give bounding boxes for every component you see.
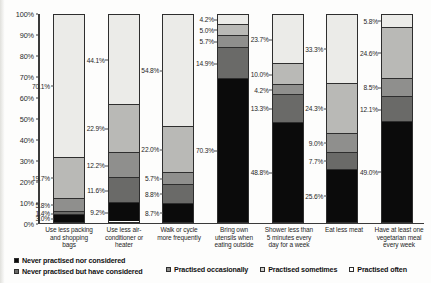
- bar-segment-value-label: 48.8%: [251, 169, 269, 176]
- bar-segment-value-label: 4.2%: [200, 16, 214, 23]
- bar-segment-value-label: 10.0%: [251, 71, 269, 78]
- bar-segment-considered[interactable]: 12.1%: [382, 96, 412, 122]
- bar-segment-sometimes[interactable]: 24.6%: [382, 27, 412, 78]
- legend-item[interactable]: Practised sometimes: [260, 265, 337, 275]
- y-axis-tick-label: 50%: [20, 115, 34, 124]
- bar-segment-value-label: 13.3%: [251, 105, 269, 112]
- stacked-bar[interactable]: 33.3%24.3%9.0%7.7%25.6%: [326, 14, 358, 223]
- legend-label: Never practised nor considered: [22, 256, 125, 266]
- chart-legend: Never practised nor consideredNever prac…: [14, 256, 424, 277]
- bar-segment-value-label: 24.3%: [305, 105, 323, 112]
- bar-segment-often[interactable]: 5.8%: [382, 15, 412, 27]
- bar-segment-value-label: 54.8%: [141, 67, 159, 74]
- bar-segment-sometimes[interactable]: 24.3%: [327, 83, 357, 133]
- stacked-bar[interactable]: 54.8%22.0%5.7%8.8%8.7%: [162, 14, 194, 223]
- bar-column[interactable]: 5.8%24.6%8.5%12.1%49.0%: [372, 14, 422, 223]
- bar-segment-occasionally[interactable]: 5.8%: [54, 198, 84, 211]
- stacked-bar[interactable]: 70.1%19.7%5.8%1.4%3.0%: [53, 14, 85, 223]
- bar-segment-value-label: 3.0%: [36, 215, 50, 222]
- legend-item[interactable]: Practised occasionally: [166, 265, 248, 275]
- bar-segment-often[interactable]: 70.1%: [54, 15, 84, 157]
- bar-segment-value-label: 8.8%: [145, 190, 159, 197]
- bar-segment-considered[interactable]: 8.8%: [163, 184, 193, 203]
- bar-segment-never[interactable]: 25.6%: [327, 169, 357, 222]
- bar-segment-never[interactable]: 49.0%: [382, 121, 412, 221]
- legend-item[interactable]: Never practised nor considered: [14, 256, 166, 266]
- bar-segment-value-label: 23.7%: [251, 36, 269, 43]
- y-axis-tick-label: 90%: [20, 31, 34, 40]
- bar-segment-occasionally[interactable]: 9.0%: [327, 133, 357, 152]
- bar-segment-often[interactable]: 4.2%: [218, 15, 248, 24]
- y-axis-tick-mark: [36, 140, 39, 141]
- bar-segment-value-label: 8.7%: [145, 209, 159, 216]
- y-axis-tick-mark: [36, 182, 39, 183]
- y-axis-tick-label: 30%: [20, 157, 34, 166]
- bar-segment-considered[interactable]: 11.6%: [109, 177, 139, 201]
- bar-segment-value-label: 22.0%: [141, 146, 159, 153]
- bar-segment-value-label: 9.2%: [90, 209, 104, 216]
- bar-segment-value-label: 12.1%: [360, 106, 378, 113]
- bar-segment-often[interactable]: 23.7%: [273, 15, 303, 63]
- bar-segment-considered[interactable]: 14.9%: [218, 47, 248, 78]
- bar-segment-never[interactable]: 70.3%: [218, 78, 248, 221]
- bar-segment-often[interactable]: 44.1%: [109, 15, 139, 104]
- stacked-bar[interactable]: 4.2%5.0%5.7%14.9%70.3%: [217, 14, 249, 223]
- bar-segment-value-label: 5.7%: [200, 38, 214, 45]
- category-label: Eat less meat: [319, 226, 369, 249]
- y-axis-tick-label: 60%: [20, 94, 34, 103]
- bar-segment-never[interactable]: 8.7%: [163, 203, 193, 222]
- category-labels: Use less packing and shopping bagsUse le…: [44, 226, 424, 249]
- legend-item[interactable]: Practised often: [349, 265, 407, 275]
- y-axis-tick-mark: [36, 56, 39, 57]
- bar-segment-sometimes[interactable]: 22.0%: [163, 126, 193, 172]
- category-label: Have at least one vegetarian meal every …: [374, 226, 424, 249]
- legend-label: Practised sometimes: [268, 265, 337, 275]
- bar-segment-value-label: 25.6%: [305, 192, 323, 199]
- y-axis-tick-mark: [36, 161, 39, 162]
- bar-segment-considered[interactable]: 7.7%: [327, 152, 357, 169]
- bar-segment-sometimes[interactable]: 19.7%: [54, 157, 84, 198]
- y-axis-tick-label: 70%: [20, 73, 34, 82]
- bar-segment-sometimes[interactable]: 5.0%: [218, 24, 248, 35]
- bar-segment-never[interactable]: 9.2%: [109, 202, 139, 222]
- bar-segment-value-label: 7.7%: [309, 157, 323, 164]
- bar-column[interactable]: 44.1%22.9%12.2%11.6%9.2%: [99, 14, 149, 223]
- bar-segment-often[interactable]: 54.8%: [163, 15, 193, 126]
- legend-label: Practised occasionally: [174, 265, 248, 275]
- bar-segment-value-label: 33.3%: [305, 45, 323, 52]
- legend-group-left: Never practised nor consideredNever prac…: [14, 256, 166, 277]
- bar-segment-value-label: 22.9%: [87, 125, 105, 132]
- bar-segment-sometimes[interactable]: 22.9%: [109, 104, 139, 151]
- bar-segment-occasionally[interactable]: 8.5%: [382, 78, 412, 96]
- y-axis-tick-mark: [36, 14, 39, 15]
- bar-segment-considered[interactable]: 13.3%: [273, 94, 303, 122]
- y-axis-tick-label: 40%: [20, 136, 34, 145]
- bar-segment-never[interactable]: 3.0%: [54, 214, 84, 221]
- category-label: Shower less than 5 minutes every day for…: [264, 226, 314, 249]
- bar-segment-occasionally[interactable]: 4.2%: [273, 84, 303, 94]
- bar-segment-often[interactable]: 33.3%: [327, 15, 357, 83]
- legend-group-right: Practised occasionallyPractised sometime…: [166, 256, 407, 276]
- bar-segment-occasionally[interactable]: 5.7%: [163, 172, 193, 185]
- legend-swatch-icon: [14, 258, 19, 263]
- bar-segment-occasionally[interactable]: 5.7%: [218, 35, 248, 48]
- bar-segment-value-label: 49.0%: [360, 168, 378, 175]
- bar-segment-sometimes[interactable]: 10.0%: [273, 63, 303, 84]
- stacked-bar[interactable]: 44.1%22.9%12.2%11.6%9.2%: [108, 14, 140, 223]
- bar-segment-never[interactable]: 48.8%: [273, 122, 303, 222]
- bar-column[interactable]: 4.2%5.0%5.7%14.9%70.3%: [208, 14, 258, 223]
- legend-item[interactable]: Never practised but have considered: [14, 267, 166, 277]
- stacked-bar[interactable]: 23.7%10.0%4.2%13.3%48.8%: [272, 14, 304, 223]
- bar-segment-value-label: 70.3%: [196, 147, 214, 154]
- legend-swatch-icon: [260, 267, 265, 272]
- y-axis-tick-label: 0%: [24, 220, 34, 229]
- bar-segment-value-label: 8.5%: [364, 84, 378, 91]
- bar-segment-value-label: 24.6%: [360, 49, 378, 56]
- stacked-bar[interactable]: 5.8%24.6%8.5%12.1%49.0%: [381, 14, 413, 223]
- bars-container: 70.1%19.7%5.8%1.4%3.0%44.1%22.9%12.2%11.…: [44, 14, 422, 223]
- bar-segment-value-label: 11.6%: [87, 187, 104, 194]
- category-label: Use less packing and shopping bags: [44, 226, 94, 249]
- bar-segment-occasionally[interactable]: 12.2%: [109, 152, 139, 178]
- bar-column[interactable]: 33.3%24.3%9.0%7.7%25.6%: [317, 14, 367, 223]
- bar-column[interactable]: 54.8%22.0%5.7%8.8%8.7%: [153, 14, 203, 223]
